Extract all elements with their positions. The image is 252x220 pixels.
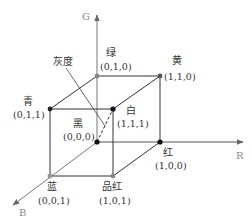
red-name: 红 <box>163 146 173 158</box>
r-axis-label: R <box>236 150 244 161</box>
black-coord: (0,0,0) <box>63 131 95 142</box>
cyan-name: 青 <box>23 95 33 107</box>
yellow-coord: (1,1,0) <box>164 71 196 82</box>
point-blue <box>48 174 53 179</box>
magenta-name: 品红 <box>102 180 122 192</box>
point-green <box>95 74 100 79</box>
white-name: 白 <box>126 104 136 116</box>
white-coord: (1,1,1) <box>117 118 149 129</box>
red-coord: (1,0,0) <box>155 160 187 171</box>
blue-coord: (0,0,1) <box>38 195 70 206</box>
point-yellow <box>158 74 163 79</box>
cyan-coord: (0,1,1) <box>13 109 45 120</box>
yellow-name: 黄 <box>172 54 182 66</box>
green-name: 绿 <box>106 46 116 58</box>
point-black <box>94 139 99 144</box>
point-red <box>157 139 162 144</box>
blue-name: 蓝 <box>47 181 57 192</box>
b-axis-label: B <box>19 207 26 218</box>
g-axis-label: G <box>82 11 90 22</box>
black-name: 黑 <box>73 118 83 129</box>
point-white <box>110 106 115 111</box>
rgb-cube-diagram: G R B 灰度 绿 (0,1,0) 黄 (1,1,0) 青 (0,1,1) 白… <box>0 0 252 220</box>
point-magenta <box>111 174 116 179</box>
point-cyan <box>48 107 53 112</box>
grayscale-label: 灰度 <box>53 55 73 67</box>
magenta-coord: (1,0,1) <box>99 195 131 206</box>
green-coord: (0,1,0) <box>100 61 132 72</box>
